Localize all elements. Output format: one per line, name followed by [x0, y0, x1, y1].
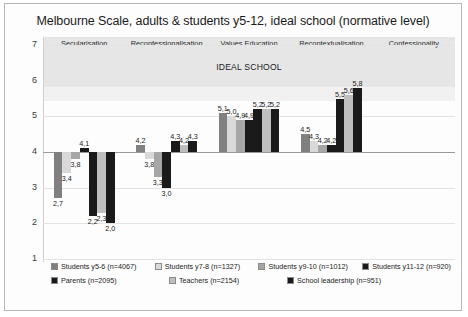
bar-slot: 4,9: [236, 37, 245, 262]
bar-slot: 2,7: [54, 37, 63, 262]
bar: [336, 99, 345, 153]
bar: [318, 145, 327, 152]
legend-item-0[interactable]: Students y5-6 (n=4067): [51, 262, 155, 271]
legend-swatch-icon: [169, 277, 176, 284]
legend-swatch-icon: [287, 277, 294, 284]
bar-group-4: [383, 37, 444, 262]
bar-slot: 5,2: [262, 37, 271, 262]
bar: [271, 109, 280, 152]
bar-slot: [401, 37, 410, 262]
bar-value-label: 5,2: [270, 100, 280, 109]
bar: [89, 152, 98, 216]
bar-slot: [418, 37, 427, 262]
y-axis-tick-6: 6: [32, 75, 37, 85]
bar-slot: 4,2: [136, 37, 145, 262]
bar-slot: 4,2: [318, 37, 327, 262]
bar-value-label: 5,8: [352, 79, 362, 88]
bar-slot: 5,8: [353, 37, 362, 262]
legend-label: School leadership (n=951): [297, 276, 381, 285]
chart-frame: Melbourne Scale, adults & students y5-12…: [4, 3, 462, 311]
legend-label: Students y9-10 (n=1012): [268, 262, 347, 271]
legend-item-2[interactable]: Students y9-10 (n=1012): [258, 262, 362, 271]
legend-label: Parents (n=2095): [61, 276, 117, 285]
bar-group-2: 5,15,04,94,95,25,25,2: [219, 37, 280, 262]
bar: [97, 152, 106, 213]
bar-slot: 4,2: [327, 37, 336, 262]
bar: [262, 109, 271, 152]
bar: [236, 120, 245, 152]
legend-item-1[interactable]: Students y7-8 (n=1327): [155, 262, 259, 271]
bar: [106, 152, 115, 223]
bar-slot: 2,0: [106, 37, 115, 262]
bar: [136, 145, 145, 152]
bar-value-label: 4,3: [188, 132, 198, 141]
bar-slot: [409, 37, 418, 262]
legend-label: Students y11-12 (n=920): [372, 262, 451, 271]
bar-slot: 3,4: [62, 37, 71, 262]
y-axis-tick-5: 5: [32, 110, 37, 120]
bar-slot: 3,8: [145, 37, 154, 262]
bar: [180, 145, 189, 152]
bar: [188, 141, 197, 152]
bar-slot: 4,3: [310, 37, 319, 262]
legend-row-2: Parents (n=2095)Teachers (n=2154)School …: [51, 276, 451, 285]
bar: [219, 113, 228, 152]
bar-slot: 4,3: [171, 37, 180, 262]
bar-slot: [427, 37, 436, 262]
bar-slot: 4,3: [188, 37, 197, 262]
bar-slot: 5,5: [336, 37, 345, 262]
y-axis-tick-2: 2: [32, 217, 37, 227]
bar: [327, 145, 336, 152]
bar-group-0: 2,73,43,84,12,22,32,0: [54, 37, 115, 262]
legend-item-3[interactable]: Students y11-12 (n=920): [362, 262, 451, 271]
chart-legend: Students y5-6 (n=4067)Students y7-8 (n=1…: [51, 262, 451, 290]
bar: [162, 152, 171, 188]
bar: [353, 88, 362, 152]
legend-swatch-icon: [51, 263, 58, 270]
legend-row-1: Students y5-6 (n=4067)Students y7-8 (n=1…: [51, 262, 451, 271]
bar-slot: [436, 37, 445, 262]
bar-slot: 4,1: [80, 37, 89, 262]
bar-slot: 4,2: [180, 37, 189, 262]
bar: [154, 152, 163, 177]
bar: [227, 116, 236, 152]
legend-item-5[interactable]: Teachers (n=2154): [169, 276, 287, 285]
legend-item-4[interactable]: Parents (n=2095): [51, 276, 169, 285]
bar: [253, 109, 262, 152]
bar-slot: 3,0: [162, 37, 171, 262]
bar-slot: 5,6: [344, 37, 353, 262]
legend-swatch-icon: [362, 263, 369, 270]
bar-slot: 5,2: [253, 37, 262, 262]
bar-slot: [383, 37, 392, 262]
y-axis-tick-7: 7: [32, 39, 37, 49]
legend-item-6[interactable]: School leadership (n=951): [287, 276, 381, 285]
bar: [80, 148, 89, 152]
plot-area: SecularisationReconfessionalisationValue…: [43, 37, 455, 262]
bar: [145, 152, 154, 159]
bar-slot: 4,9: [245, 37, 254, 262]
legend-label: Teachers (n=2154): [179, 276, 239, 285]
bar: [71, 152, 80, 159]
bar-slot: 5,1: [219, 37, 228, 262]
bar-slot: 3,3: [154, 37, 163, 262]
bar: [344, 95, 353, 152]
page-title: Melbourne Scale, adults & students y5-12…: [5, 14, 461, 28]
y-axis-tick-1: 1: [32, 253, 37, 263]
y-axis-tick-4: 4: [32, 146, 37, 156]
legend-swatch-icon: [258, 263, 265, 270]
bar-slot: 2,2: [89, 37, 98, 262]
legend-label: Students y5-6 (n=4067): [61, 262, 136, 271]
bar-slot: [392, 37, 401, 262]
bar: [245, 120, 254, 152]
bar-slot: 5,0: [227, 37, 236, 262]
legend-swatch-icon: [155, 263, 162, 270]
bar-slot: 3,8: [71, 37, 80, 262]
bar-group-1: 4,23,83,33,04,34,24,3: [136, 37, 197, 262]
bar-slot: 4,5: [301, 37, 310, 262]
legend-swatch-icon: [51, 277, 58, 284]
bar-group-3: 4,54,34,24,25,55,65,8: [301, 37, 362, 262]
bar-value-label: 2,0: [105, 224, 115, 233]
bar-slot: 5,2: [271, 37, 280, 262]
y-axis-tick-3: 3: [32, 182, 37, 192]
bar-series-container: 2,73,43,84,12,22,32,04,23,83,33,04,34,24…: [43, 37, 455, 262]
